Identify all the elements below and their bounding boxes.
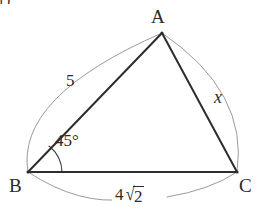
side-label-bc: 4 √ 2 <box>112 186 147 206</box>
side-label-ac: x <box>214 88 222 106</box>
radical-group: √ 2 <box>125 186 145 206</box>
side-label-bc-radicand: 2 <box>133 186 145 206</box>
vertex-point-a <box>160 31 163 34</box>
side-label-bc-coefficient: 4 <box>115 186 124 203</box>
triangle-edge-ab <box>28 33 162 172</box>
side-label-ab: 5 <box>66 72 75 89</box>
geometry-figure: 1) A B C 5 x 4 √ 2 45° <box>0 0 262 211</box>
triangle-edge-ac <box>162 33 237 172</box>
vertex-point-b <box>26 170 29 173</box>
arc-side-bc-right <box>167 172 237 197</box>
vertex-label-c: C <box>239 176 252 195</box>
radical-sign-icon: √ <box>125 185 134 202</box>
vertex-label-b: B <box>9 176 22 195</box>
vertex-point-c <box>235 170 238 173</box>
vertex-label-a: A <box>151 7 165 26</box>
angle-label-b: 45° <box>55 132 79 149</box>
triangle-diagram-canvas <box>0 0 262 211</box>
